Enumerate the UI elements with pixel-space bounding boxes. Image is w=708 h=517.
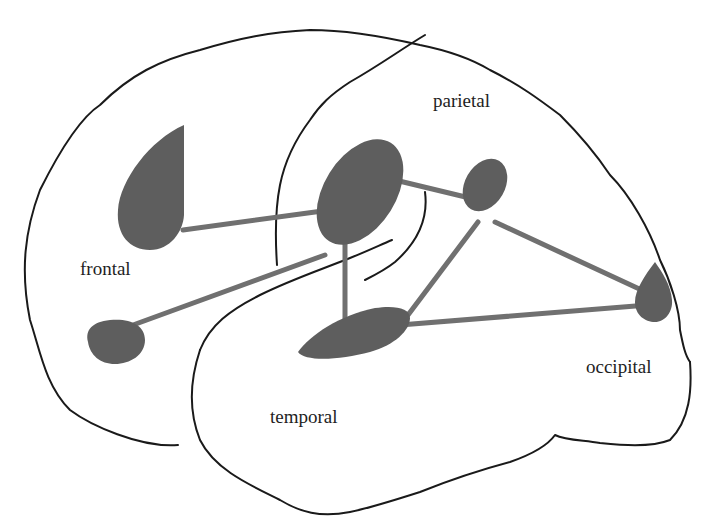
edge-temporal-occipital [400,305,648,325]
node-temporal [298,307,410,359]
node-parietal-small [454,151,517,219]
node-frontal-lower [87,320,145,364]
label-frontal: frontal [80,258,131,279]
edge-small-occipital [495,222,648,293]
edge-small-temporal [408,222,478,315]
node-frontal-upper [118,125,184,250]
brain-svg: parietal frontal temporal occipital [0,0,708,517]
label-temporal: temporal [270,406,338,427]
label-occipital: occipital [586,356,651,377]
brain-network-diagram: parietal frontal temporal occipital [0,0,708,517]
node-occipital [635,262,672,322]
edge-frontal-upper-parietal [183,210,330,230]
node-parietal-main [299,124,422,261]
label-parietal: parietal [433,90,490,111]
